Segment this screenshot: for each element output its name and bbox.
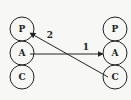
svg-text:A: A (18, 48, 27, 58)
edge-1: 1 (30, 42, 103, 54)
svg-text:P: P (19, 24, 26, 34)
svg-text:A: A (111, 48, 120, 58)
node-left-a: A (10, 41, 34, 65)
node-right-a: A (103, 41, 127, 65)
svg-text:C: C (18, 72, 25, 82)
node-left-p: P (10, 17, 34, 41)
svg-text:P: P (112, 24, 119, 34)
svg-text:2: 2 (47, 30, 53, 40)
node-left-c: C (10, 65, 34, 89)
svg-text:1: 1 (83, 42, 89, 52)
node-right-c: C (103, 65, 127, 89)
svg-text:C: C (111, 72, 118, 82)
diagram-canvas: P A C P A C 1 2 (0, 0, 131, 100)
diagram-svg: P A C P A C 1 2 (0, 0, 131, 100)
node-right-p: P (103, 17, 127, 41)
